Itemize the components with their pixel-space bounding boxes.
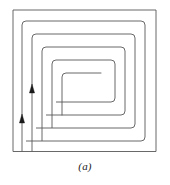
square-spiral-diagram <box>0 0 170 185</box>
spiral-turn-4 <box>42 47 125 141</box>
spiral-turn-2 <box>22 21 145 152</box>
inner-flow-arrow-head <box>29 84 34 93</box>
spiral-terminus-arm <box>62 73 101 115</box>
outer-flow-arrow-head <box>19 114 24 123</box>
spiral-turn-3 <box>32 34 135 152</box>
inner-flow-arrow <box>29 84 34 93</box>
figure-container: (a) <box>0 0 170 185</box>
figure-caption: (a) <box>0 160 170 172</box>
outer-flow-arrow <box>19 114 24 123</box>
spiral-turn-5-inner <box>52 60 115 128</box>
